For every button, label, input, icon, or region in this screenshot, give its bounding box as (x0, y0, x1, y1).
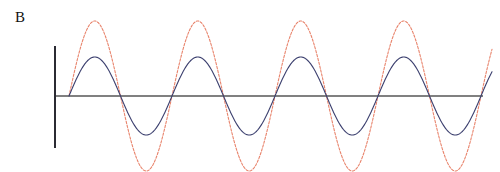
figure-panel: B (0, 0, 500, 172)
waveform-plot (0, 0, 500, 172)
